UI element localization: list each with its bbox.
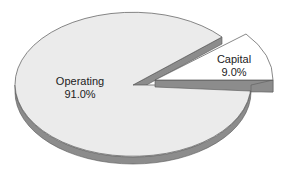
capital-label: Capital 9.0% [210, 53, 258, 79]
capital-name: Capital [210, 53, 258, 66]
operating-name: Operating [48, 75, 112, 88]
capital-value: 9.0% [210, 66, 258, 79]
pie-chart-graphic [0, 0, 287, 181]
operating-value: 91.0% [48, 88, 112, 101]
operating-label: Operating 91.0% [48, 75, 112, 101]
